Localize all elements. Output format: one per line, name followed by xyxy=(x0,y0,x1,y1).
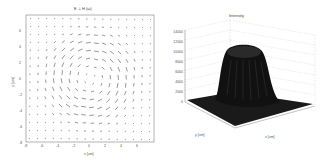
x-tick: -6 xyxy=(40,144,43,148)
z-tick: 14000 xyxy=(173,30,183,34)
quiver-xlabel: x [um] xyxy=(84,152,94,156)
z-tick: 12000 xyxy=(173,40,183,44)
x-tick: -2 xyxy=(72,144,75,148)
x-tick: 2 xyxy=(104,144,106,148)
z-tick: 2000 xyxy=(175,90,183,94)
quiver-ylabel: y [um] xyxy=(11,77,15,87)
y-tick: -2 xyxy=(19,93,22,97)
x-tick: 0 xyxy=(88,144,90,148)
z-tick: 4000 xyxy=(175,80,183,84)
x-tick: -4 xyxy=(56,144,59,148)
x-tick: -8 xyxy=(24,144,27,148)
z-tick: 10000 xyxy=(173,50,183,54)
y-tick: 0 xyxy=(19,77,21,81)
y-tick: 6 xyxy=(19,29,21,33)
y-tick: -6 xyxy=(19,125,22,129)
z-tick: 6000 xyxy=(175,70,183,74)
x-tick: 4 xyxy=(120,144,122,148)
x-tick: 6 xyxy=(136,144,138,148)
surface-ylabel: y [um] xyxy=(195,133,205,137)
surface-plot: Intensity 020004000600080001 xyxy=(165,0,330,162)
surface-xlabel: x [um] xyxy=(265,135,275,139)
z-tick: 8000 xyxy=(175,60,183,64)
z-tick: 0 xyxy=(181,100,183,104)
y-tick: -8 xyxy=(19,141,22,145)
quiver-axes xyxy=(0,0,165,162)
y-tick: 2 xyxy=(19,61,21,65)
y-tick: 4 xyxy=(19,45,21,49)
y-tick: -4 xyxy=(19,109,22,113)
surface-axes xyxy=(165,0,330,162)
quiver-plot: E ⊥ H (ω) -8-6-4-20246 6420-2-4-6-8 x [u… xyxy=(0,0,165,162)
